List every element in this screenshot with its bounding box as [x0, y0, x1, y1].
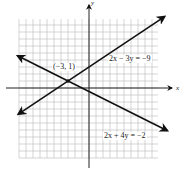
axes — [6, 5, 172, 168]
coordinate-plane — [0, 0, 188, 171]
line2-label: 2x + 4y = −2 — [103, 132, 147, 140]
x-axis-label: x — [176, 85, 179, 92]
intersection-label: (−3, 1) — [52, 63, 76, 71]
intersection-point — [66, 79, 70, 83]
line1-label: 2x − 3y = −9 — [108, 55, 152, 63]
y-axis-label: y — [91, 0, 94, 7]
